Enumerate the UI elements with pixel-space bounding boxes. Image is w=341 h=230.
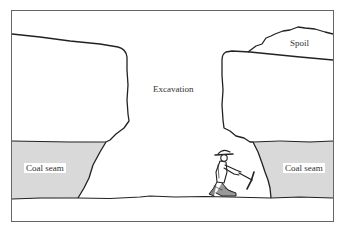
excavation-label: Excavation: [153, 84, 193, 94]
spoil-label: Spoil: [290, 38, 309, 48]
coal-seam-left-label: Coal seam: [24, 163, 66, 173]
coal-seam-right-top: [253, 141, 333, 142]
coal-seam-right-label: Coal seam: [283, 163, 325, 173]
miner-with-pickaxe-icon: [209, 150, 254, 196]
excavation-diagram: [0, 0, 341, 230]
